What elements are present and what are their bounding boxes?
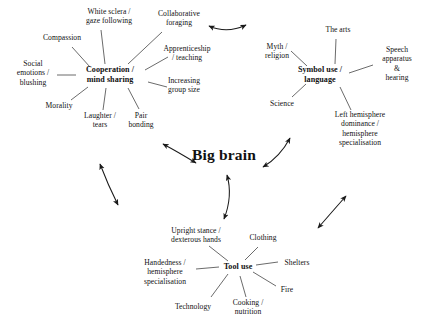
hub-tool-use: Tool use	[224, 262, 253, 272]
node-social-emotions-blushing: Social emotions / blushing	[17, 59, 49, 87]
node-technology: Technology	[175, 302, 211, 311]
connector-cooperation-tool	[100, 164, 118, 205]
node-upright-stance-dexterous-hands: Upright stance / dexterous hands	[171, 226, 221, 245]
node-speech-apparatus-hearing: Speech apparatus & hearing	[382, 45, 412, 82]
connector-symbol-bigbrain	[263, 138, 290, 167]
node-morality: Morality	[46, 101, 73, 110]
node-increasing-group-size: Increasing group size	[168, 76, 200, 95]
node-white-sclera-gaze-following: White sclera / gaze following	[86, 7, 132, 26]
node-pair-bonding: Pair bonding	[128, 111, 153, 130]
connector-symbol-tool	[318, 196, 346, 228]
node-fire: Fire	[281, 285, 293, 294]
node-compassion: Compassion	[43, 33, 81, 42]
node-left-hemisphere-dominance: Left hemisphere dominance / hemisphere s…	[335, 110, 385, 147]
node-handedness-hemisphere-specialisation: Handedness / hemisphere specialisation	[144, 258, 186, 286]
node-apprenticeship-teaching: Apprenticeship / teaching	[163, 44, 210, 63]
node-myth-religion: Myth / religion	[265, 42, 289, 61]
node-the-arts: The arts	[325, 25, 350, 34]
diagram-canvas: Big brain Cooperation / mind sharing Whi…	[0, 0, 425, 335]
node-science: Science	[270, 99, 294, 108]
node-clothing: Clothing	[250, 233, 277, 242]
node-laughter-tears: Laughter / tears	[84, 111, 116, 130]
center-node-big-brain: Big brain	[192, 146, 256, 165]
node-collaborative-foraging: Collaborative foraging	[158, 9, 200, 28]
node-shelters: Shelters	[285, 258, 310, 267]
diagram-lines-layer	[0, 0, 425, 335]
node-cooking-nutrition: Cooking / nutrition	[233, 298, 264, 317]
connector-cooperation-symbol	[209, 25, 246, 30]
connector-bigbrain-tool	[224, 175, 229, 219]
hub-symbol-use-language: Symbol use / language	[298, 65, 342, 85]
hub-cooperation-mind-sharing: Cooperation / mind sharing	[86, 65, 134, 85]
